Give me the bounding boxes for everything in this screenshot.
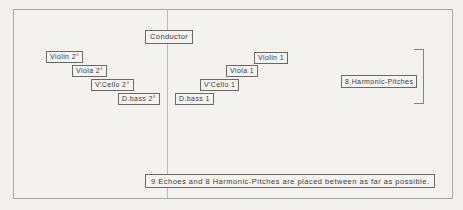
dbass-2-label: D.bass 2° — [118, 93, 160, 105]
diagram-frame — [13, 9, 453, 199]
viola-2-label: Viola 2° — [72, 65, 107, 77]
stage-placement-diagram: Conductor Violin 2° Viola 2° V'Cello 2° … — [0, 0, 463, 210]
violin-1-label: Violin 1 — [254, 52, 288, 64]
conductor-label: Conductor — [145, 30, 193, 44]
placement-caption: 9 Echoes and 8 Harmonic-Pitches are plac… — [145, 174, 435, 188]
viola-1-label: Viola 1 — [226, 65, 258, 77]
violin-2-label: Violin 2° — [46, 51, 83, 63]
vcello-1-label: V'Cello 1 — [200, 79, 239, 91]
harmonic-pitches-label: 8 Harmonic-Pitches — [341, 75, 417, 88]
dbass-1-label: D.bass 1 — [175, 93, 214, 105]
vcello-2-label: V'Cello 2° — [91, 79, 134, 91]
